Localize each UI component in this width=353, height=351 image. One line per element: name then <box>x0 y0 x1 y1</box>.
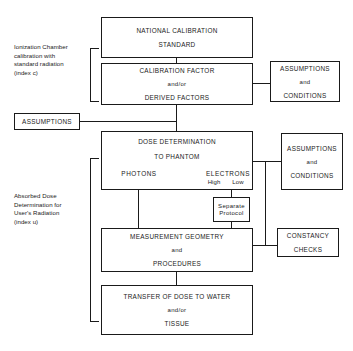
assumptions-top-line-3: CONDITIONS <box>283 92 326 99</box>
connector-measurement-to-transfer <box>176 272 177 285</box>
box-calibration-factor[interactable]: CALIBRATION FACTOR and/or DERIVED FACTOR… <box>101 63 253 105</box>
connector-right-trunk-to-constancy <box>265 245 277 246</box>
side-label-absorbed-dose: Absorbed Dose Determination for User's R… <box>14 192 96 226</box>
separate-protocol-line-2: Protocol <box>219 210 243 216</box>
assumptions-mid-line-2: and <box>307 159 318 165</box>
constancy-checks-line-2: CHECKS <box>294 246 322 253</box>
dose-determination-electrons-high: High <box>203 179 225 185</box>
dose-determination-photons-label: PHOTONS <box>112 170 166 177</box>
box-constancy-checks[interactable]: CONSTANCY CHECKS <box>277 228 339 257</box>
national-standard-line-1: NATIONAL CALIBRATION <box>136 27 217 34</box>
measurement-geometry-line-3: PROCEDURES <box>153 260 201 267</box>
assumptions-top-line-2: and <box>300 79 311 85</box>
right-trunk-vertical <box>265 161 266 245</box>
calibration-factor-line-2: and/or <box>168 81 187 87</box>
measurement-geometry-line-2: and <box>172 247 183 253</box>
connector-photons-down <box>138 190 139 228</box>
box-assumptions-conditions-mid[interactable]: ASSUMPTIONS and CONDITIONS <box>281 133 343 190</box>
dose-determination-electrons-low: Low <box>227 179 249 185</box>
connector-calibration-to-dose <box>176 104 177 132</box>
transfer-dose-line-1: TRANSFER OF DOSE TO WATER <box>123 293 230 300</box>
measurement-geometry-line-1: MEASUREMENT GEOMETRY <box>130 233 224 240</box>
transfer-dose-line-2: and/or <box>168 307 187 313</box>
assumptions-mid-line-3: CONDITIONS <box>290 172 333 179</box>
dose-determination-line-1: DOSE DETERMINATION <box>138 138 216 145</box>
connector-measurement-to-right-trunk <box>253 245 265 246</box>
constancy-checks-line-1: CONSTANCY <box>287 232 329 239</box>
box-measurement-geometry[interactable]: MEASUREMENT GEOMETRY and PROCEDURES <box>101 228 253 272</box>
transfer-dose-line-3: TISSUE <box>165 320 190 327</box>
connector-assumptions-left-to-trunk <box>80 121 177 122</box>
national-standard-line-2: STANDARD <box>158 41 195 48</box>
connector-right-trunk-to-assumptions-mid <box>265 161 281 162</box>
separate-protocol-line-1: Separate <box>218 203 245 209</box>
bracket-absorbed-dose <box>90 158 99 322</box>
assumptions-left-label: ASSUMPTIONS <box>22 118 72 125</box>
flowchart-canvas: Ionization Chamber calibration with stan… <box>0 0 353 351</box>
box-assumptions-left[interactable]: ASSUMPTIONS <box>14 113 80 130</box>
box-assumptions-conditions-top[interactable]: ASSUMPTIONS and CONDITIONS <box>270 61 340 102</box>
box-transfer-of-dose[interactable]: TRANSFER OF DOSE TO WATER and/or TISSUE <box>101 285 253 335</box>
calibration-factor-line-1: CALIBRATION FACTOR <box>139 67 214 74</box>
dose-determination-electrons-label: ELECTRONS <box>203 170 253 177</box>
assumptions-mid-line-1: ASSUMPTIONS <box>287 145 337 152</box>
assumptions-top-line-1: ASSUMPTIONS <box>280 65 330 72</box>
dose-determination-line-2: TO PHANTOM <box>154 153 199 160</box>
calibration-factor-line-3: DERIVED FACTORS <box>145 94 210 101</box>
side-label-ionization-chamber: Ionization Chamber calibration with stan… <box>14 43 92 77</box>
box-separate-protocol[interactable]: Separate Protocol <box>213 197 250 222</box>
connector-calibration-to-assumptions-top <box>253 83 270 84</box>
connector-electrons-down <box>231 190 232 197</box>
box-national-calibration-standard[interactable]: NATIONAL CALIBRATION STANDARD <box>101 17 253 58</box>
connector-dose-to-right-trunk <box>253 161 265 162</box>
